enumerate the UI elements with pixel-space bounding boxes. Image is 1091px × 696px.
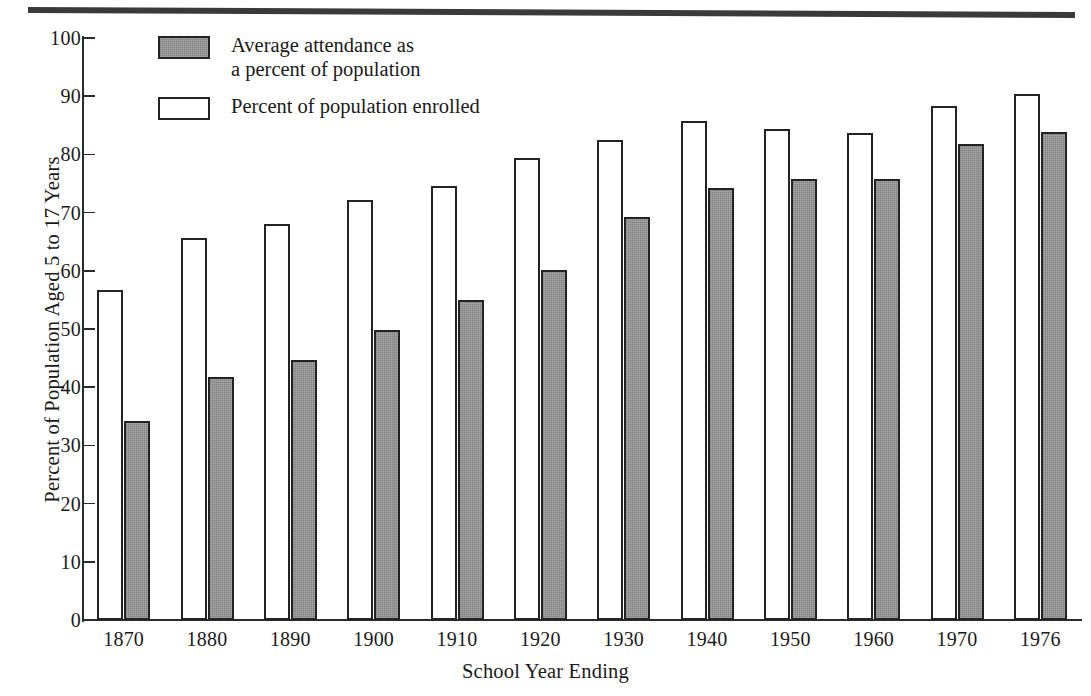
- bar-attendance: [291, 360, 317, 620]
- bar-attendance: [874, 179, 900, 620]
- x-axis-tick-label: 1930: [579, 628, 669, 651]
- x-axis-tick-label: 1910: [412, 628, 502, 651]
- bar-enrolled: [431, 186, 457, 620]
- legend-item-attendance: Average attendance as a percent of popul…: [158, 33, 578, 81]
- bar-attendance: [958, 144, 984, 620]
- x-axis-tick-label: 1976: [995, 628, 1085, 651]
- bar-attendance: [791, 179, 817, 620]
- y-axis-tick-label: 30: [35, 435, 81, 455]
- legend-item-enrolled: Percent of population enrolled: [158, 94, 578, 120]
- y-axis-tick-label: 10: [35, 552, 81, 572]
- x-axis-tick-label: 1870: [79, 628, 169, 651]
- legend-label-attendance: Average attendance as a percent of popul…: [231, 33, 421, 81]
- bar-enrolled: [764, 129, 790, 620]
- x-axis-tick-label: 1960: [829, 628, 919, 651]
- bar-enrolled: [264, 224, 290, 620]
- x-axis-tick-label: 1900: [329, 628, 419, 651]
- bar-enrolled: [931, 106, 957, 620]
- bar-attendance: [208, 377, 234, 620]
- bar-attendance: [624, 217, 650, 620]
- bar-enrolled: [97, 290, 123, 620]
- y-axis-tick-label: 50: [35, 319, 81, 339]
- bar-enrolled: [847, 133, 873, 620]
- x-axis-tick-label: 1890: [245, 628, 335, 651]
- bar-enrolled: [681, 121, 707, 620]
- bar-attendance: [708, 188, 734, 620]
- chart-legend: Average attendance as a percent of popul…: [158, 33, 578, 133]
- bar-attendance: [458, 300, 484, 620]
- top-divider-rule: [28, 7, 1075, 18]
- bar-enrolled: [181, 238, 207, 620]
- y-axis-tick-label: 60: [35, 261, 81, 281]
- bar-enrolled: [514, 158, 540, 620]
- bar-attendance: [374, 330, 400, 620]
- legend-swatch-hollow-icon: [158, 97, 210, 120]
- y-axis-tick-label: 20: [35, 494, 81, 514]
- bar-attendance: [541, 270, 567, 620]
- chart-figure: Percent of Population Aged 5 to 17 Years…: [0, 0, 1091, 696]
- y-axis-tick-label: 90: [35, 86, 81, 106]
- x-axis-tick-label: 1880: [162, 628, 252, 651]
- y-axis-tick-label: 100: [35, 28, 81, 48]
- bar-attendance: [124, 421, 150, 620]
- x-axis-tick-label: 1950: [745, 628, 835, 651]
- y-axis-tick-label: 80: [35, 144, 81, 164]
- bar-enrolled: [597, 140, 623, 620]
- bar-enrolled: [347, 200, 373, 620]
- x-axis-tick-label: 1940: [662, 628, 752, 651]
- x-axis-title: School Year Ending: [0, 660, 1091, 683]
- legend-swatch-filled-icon: [158, 36, 210, 59]
- x-axis-tick-label: 1920: [495, 628, 585, 651]
- bar-attendance: [1041, 132, 1067, 620]
- y-axis-tick-label: 70: [35, 203, 81, 223]
- y-axis-tick-label: 40: [35, 377, 81, 397]
- y-axis-tick-label: 0: [35, 610, 81, 630]
- bar-enrolled: [1014, 94, 1040, 620]
- legend-label-enrolled: Percent of population enrolled: [231, 94, 480, 118]
- x-axis-tick-label: 1970: [912, 628, 1002, 651]
